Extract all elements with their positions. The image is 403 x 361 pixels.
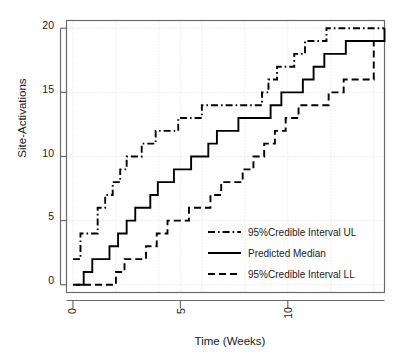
y-tick-label: 10: [32, 147, 54, 159]
x-tick-label: 10: [282, 303, 294, 323]
y-axis-title: Site-Activations: [16, 38, 28, 198]
legend-sample-lines: [208, 232, 241, 274]
legend-label-ul: 95%Credible Interval UL: [248, 227, 356, 238]
chart-figure: 0 5 10 15 20 0 5 10 Site-Activations Tim…: [0, 0, 403, 361]
y-axis-ticks: [61, 28, 67, 285]
series-line: [73, 28, 385, 259]
legend-label-median: Predicted Median: [248, 248, 326, 259]
x-tick-label: 5: [175, 301, 187, 321]
x-axis-ticks: [67, 301, 385, 309]
legend-label-ll: 95%Credible Interval LL: [248, 269, 355, 280]
y-tick-label: 5: [32, 210, 54, 222]
chart-canvas: [0, 0, 403, 361]
x-axis-title: Time (Weeks): [130, 335, 330, 347]
y-tick-label: 0: [32, 274, 54, 286]
y-tick-label: 20: [32, 19, 54, 31]
x-tick-label: 0: [66, 301, 78, 321]
y-tick-label: 15: [32, 83, 54, 95]
series-line: [73, 41, 385, 285]
series-line: [76, 28, 384, 285]
